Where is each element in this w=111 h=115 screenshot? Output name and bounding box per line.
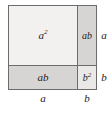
region-b-squared-label: b2 — [83, 73, 92, 83]
region-a-squared: a2 — [8, 5, 78, 66]
region-ab-top-right-label: ab — [82, 31, 92, 41]
region-ab-top-right: ab — [77, 5, 97, 66]
region-ab-bottom-left: ab — [8, 65, 78, 90]
region-a-squared-label-exponent: 2 — [44, 28, 48, 36]
dimension-label-right-a: a — [99, 30, 109, 41]
region-b-squared: b2 — [77, 65, 97, 90]
dimension-label-bottom-a: a — [8, 93, 78, 104]
binomial-square-diagram: a2 ab ab b2 a b a b — [0, 0, 111, 115]
region-b-squared-label-exponent: 2 — [88, 70, 92, 78]
region-a-squared-label: a2 — [39, 30, 48, 41]
region-ab-bottom-left-label: ab — [38, 72, 49, 83]
dimension-label-right-b: b — [99, 72, 109, 83]
dimension-label-bottom-b: b — [77, 93, 97, 104]
